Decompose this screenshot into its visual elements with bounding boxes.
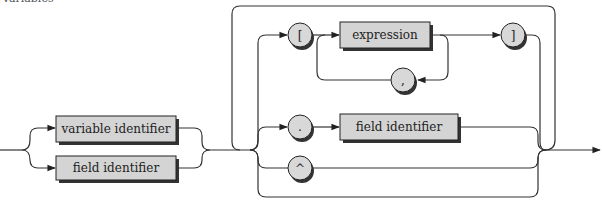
field-identifier-entry-label: field identifier: [73, 161, 160, 175]
field-branch: . field identifier: [288, 114, 546, 150]
field-identifier-entry-box: field identifier: [56, 156, 179, 183]
variable-identifier-label: variable identifier: [61, 122, 171, 136]
dot-symbol: .: [298, 120, 302, 134]
open-bracket-symbol: [: [298, 29, 303, 43]
comma-symbol: ,: [401, 73, 405, 87]
pointer-branch: ^: [288, 150, 546, 183]
variable-identifier-box: variable identifier: [56, 116, 179, 145]
caret-symbol: ^: [295, 162, 305, 176]
entry-merge-path: [176, 128, 250, 168]
syntax-diagram: variable identifier field identifier [ e…: [0, 0, 602, 201]
field-identifier-selector-label: field identifier: [356, 120, 443, 134]
entry-path: [0, 128, 55, 168]
close-bracket-symbol: ]: [511, 29, 516, 43]
expression-label: expression: [352, 28, 418, 42]
